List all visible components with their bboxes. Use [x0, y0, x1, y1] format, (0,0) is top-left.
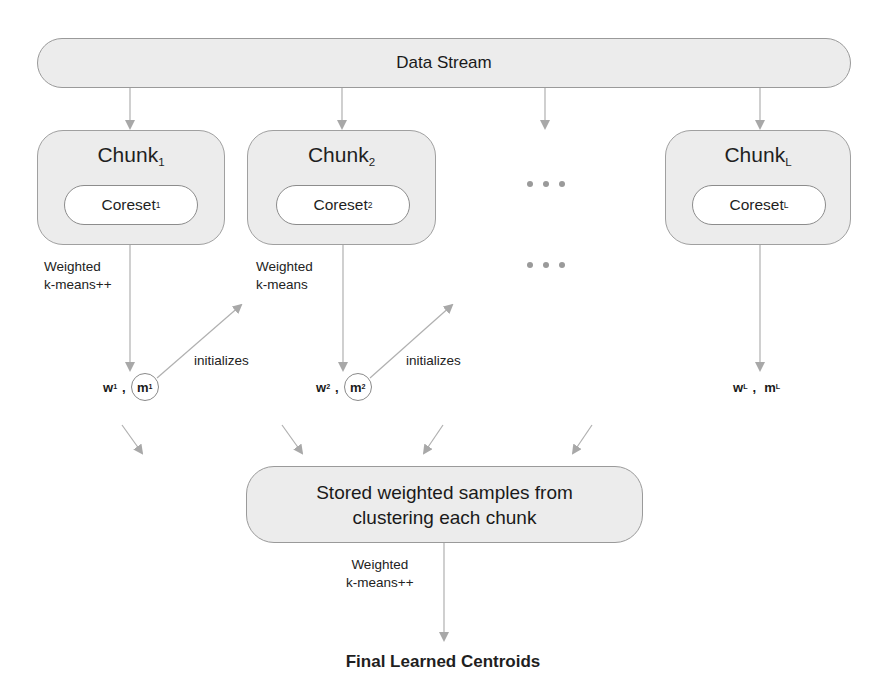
- dot-icon: [543, 262, 549, 268]
- centroid-1-subscript: 1: [149, 383, 153, 391]
- chunk-1-box: Chunk1 Coreset1: [37, 130, 225, 245]
- edge-label-chunk1-line2: k-means++: [44, 276, 112, 294]
- chunk-L-subscript: L: [785, 156, 791, 168]
- chunk-2-title-text: Chunk: [308, 143, 369, 166]
- initializes-label-2: initializes: [406, 352, 461, 370]
- stored-samples-line2: clustering each chunk: [353, 505, 537, 530]
- coreset-2-pill: Coreset2: [276, 185, 410, 225]
- chunk-2-subscript: 2: [369, 156, 375, 168]
- arrow-ellipsis-to-stored: [424, 425, 443, 453]
- separator: ,: [335, 380, 339, 395]
- edge-label-chunk2-line1: Weighted: [256, 258, 313, 276]
- arrow-output2-to-stored: [282, 425, 302, 453]
- edge-label-chunk1: Weighted k-means++: [44, 258, 112, 294]
- centroid-2: m: [350, 380, 362, 395]
- dot-icon: [559, 181, 565, 187]
- edge-label-final: Weighted k-means++: [346, 556, 414, 592]
- edge-label-chunk2: Weighted k-means: [256, 258, 313, 294]
- edge-label-chunk1-line1: Weighted: [44, 258, 112, 276]
- final-centroids-label: Final Learned Centroids: [0, 652, 886, 672]
- coreset-2-text: Coreset: [313, 196, 367, 214]
- weight-1: w: [103, 380, 113, 395]
- coreset-L-subscript: L: [784, 200, 789, 210]
- ellipsis-chunks: [527, 181, 565, 187]
- centroid-2-circle: m2: [344, 373, 372, 401]
- chunk-L-title-text: Chunk: [724, 143, 785, 166]
- data-stream-box: Data Stream: [37, 38, 851, 88]
- chunk-1-title-text: Chunk: [97, 143, 158, 166]
- edge-label-final-line1: Weighted: [346, 556, 414, 574]
- separator: ,: [122, 380, 126, 395]
- connector-layer: [0, 0, 886, 694]
- coreset-1-text: Coreset: [101, 196, 155, 214]
- centroid-L-subscript: L: [776, 383, 780, 391]
- output-L: wL , mL: [733, 373, 780, 401]
- output-1: w1 , m1: [103, 373, 159, 401]
- weight-L: w: [733, 380, 743, 395]
- dot-icon: [527, 181, 533, 187]
- centroid-2-subscript: 2: [362, 383, 366, 391]
- weight-2: w: [316, 380, 326, 395]
- coreset-2-subscript: 2: [368, 200, 373, 210]
- coreset-1-subscript: 1: [156, 200, 161, 210]
- centroid-1-circle: m1: [131, 373, 159, 401]
- dot-icon: [527, 262, 533, 268]
- edge-label-chunk2-line2: k-means: [256, 276, 313, 294]
- output-2: w2 , m2: [316, 373, 372, 401]
- separator: ,: [753, 380, 757, 395]
- edge-label-final-line2: k-means++: [346, 574, 414, 592]
- arrow-outputL-to-stored: [573, 425, 592, 453]
- chunk-1-subscript: 1: [158, 156, 164, 168]
- chunk-2-title: Chunk2: [248, 143, 435, 168]
- initializes-label-1: initializes: [194, 352, 249, 370]
- centroid-1: m: [137, 380, 149, 395]
- chunk-L-box: ChunkL CoresetL: [665, 130, 851, 245]
- dot-icon: [543, 181, 549, 187]
- weight-1-subscript: 1: [113, 383, 117, 391]
- arrow-output1-to-stored: [122, 425, 142, 453]
- stored-samples-line1: Stored weighted samples from: [316, 480, 573, 505]
- weight-2-subscript: 2: [326, 383, 330, 391]
- dot-icon: [559, 262, 565, 268]
- chunk-1-title: Chunk1: [38, 143, 224, 168]
- chunk-2-box: Chunk2 Coreset2: [247, 130, 436, 245]
- weight-L-subscript: L: [743, 383, 747, 391]
- coreset-L-pill: CoresetL: [692, 185, 826, 225]
- centroid-L: m: [764, 380, 776, 395]
- coreset-1-pill: Coreset1: [64, 185, 198, 225]
- data-stream-label: Data Stream: [396, 53, 491, 73]
- ellipsis-process: [527, 262, 565, 268]
- coreset-L-text: Coreset: [729, 196, 783, 214]
- chunk-L-title: ChunkL: [666, 143, 850, 168]
- stored-samples-box: Stored weighted samples from clustering …: [246, 466, 643, 543]
